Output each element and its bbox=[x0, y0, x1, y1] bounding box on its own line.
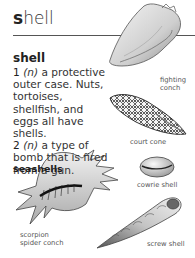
headword: shell bbox=[13, 51, 45, 65]
page-title: shell bbox=[13, 8, 54, 28]
caption-line: conch bbox=[160, 84, 186, 92]
caption-line: spider conch bbox=[20, 239, 63, 247]
court-cone-illustration bbox=[108, 92, 188, 138]
definition-1: 1 (n) a protective outer case. Nuts, tor… bbox=[13, 66, 109, 139]
definitions: 1 (n) a protective outer case. Nuts, tor… bbox=[13, 66, 109, 176]
caption-fighting-conch: fighting conch bbox=[160, 76, 186, 92]
definition-number: 1 bbox=[13, 66, 20, 78]
part-of-speech: (n) bbox=[23, 66, 38, 78]
cowrie-shell-illustration bbox=[138, 155, 176, 179]
title-rest: hell bbox=[23, 8, 54, 28]
title-initial: s bbox=[13, 8, 23, 28]
caption-court-cone: court cone bbox=[130, 138, 166, 146]
definition-number: 2 bbox=[13, 139, 20, 151]
part-of-speech: (n) bbox=[23, 139, 38, 151]
caption-line: fighting bbox=[160, 76, 186, 84]
caption-screw-shell: screw shell bbox=[147, 240, 185, 248]
caption-cowrie-shell: cowrie shell bbox=[137, 181, 177, 189]
subheading-seashells: seashells bbox=[13, 163, 63, 174]
fighting-conch-illustration bbox=[100, 2, 192, 72]
caption-line: scorpion bbox=[20, 231, 63, 239]
caption-scorpion-spider-conch: scorpion spider conch bbox=[20, 231, 63, 247]
